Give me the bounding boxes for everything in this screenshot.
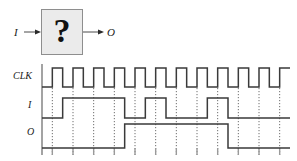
- timing-diagram: CLK I O: [0, 60, 297, 161]
- block-diagram: I ? O: [0, 0, 297, 62]
- waveform-i: [42, 98, 290, 118]
- waveform-o: [42, 124, 290, 148]
- waveform-clk: [42, 68, 290, 87]
- figure-root: I ? O CLK I O: [0, 0, 297, 161]
- block-output-label: O: [107, 26, 115, 38]
- unknown-logic-box: ?: [41, 9, 83, 55]
- question-mark-label: ?: [42, 10, 82, 54]
- waveform-canvas: [0, 60, 297, 161]
